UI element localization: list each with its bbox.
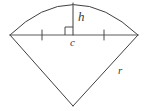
left-radius-line [10, 35, 73, 106]
label-radius: r [118, 64, 123, 76]
geometry-figure: h c r [0, 0, 147, 111]
sector-arc [10, 5, 138, 36]
figure-canvas: h c r [0, 0, 147, 111]
label-center: c [70, 36, 75, 48]
right-radius-line [73, 35, 138, 106]
label-height: h [78, 9, 85, 24]
right-angle-marker-icon [65, 27, 73, 35]
